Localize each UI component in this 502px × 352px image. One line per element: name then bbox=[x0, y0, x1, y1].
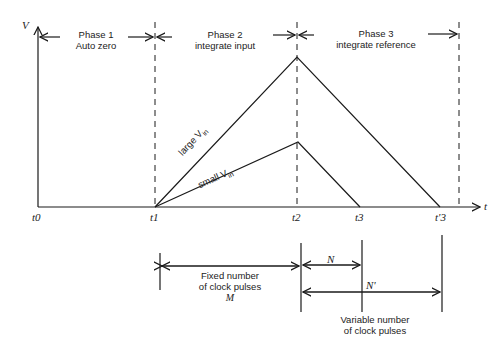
t3-label: t3 bbox=[355, 212, 364, 223]
x-axis-label: t bbox=[484, 201, 487, 212]
phase1-label: Phase 1 Auto zero bbox=[66, 29, 126, 51]
phase1-name: Phase 1 bbox=[66, 29, 126, 40]
variable-line2: of clock pulses bbox=[330, 325, 420, 336]
phase3-desc: integrate reference bbox=[330, 39, 422, 50]
t2-label: t2 bbox=[292, 212, 301, 223]
fixed-count-label: Fixed number of clock pulses M bbox=[185, 270, 275, 303]
phase2-name: Phase 2 bbox=[190, 29, 260, 40]
n-label: N bbox=[327, 254, 334, 265]
fixed-symbol: M bbox=[185, 292, 275, 303]
y-axis-label: V bbox=[22, 20, 29, 31]
t3prime-label: t'3 bbox=[435, 212, 446, 223]
phase3-label: Phase 3 integrate reference bbox=[330, 28, 422, 50]
n-prime-label: N' bbox=[366, 280, 376, 291]
fixed-line1: Fixed number bbox=[185, 270, 275, 281]
phase2-label: Phase 2 integrate input bbox=[190, 29, 260, 51]
phase2-desc: integrate input bbox=[190, 40, 260, 51]
variable-count-label: Variable number of clock pulses bbox=[330, 314, 420, 336]
t0-label: t0 bbox=[32, 212, 41, 223]
t1-label: t1 bbox=[150, 212, 159, 223]
phase1-desc: Auto zero bbox=[66, 40, 126, 51]
phase3-name: Phase 3 bbox=[330, 28, 422, 39]
fixed-line2: of clock pulses bbox=[185, 281, 275, 292]
variable-line1: Variable number bbox=[330, 314, 420, 325]
